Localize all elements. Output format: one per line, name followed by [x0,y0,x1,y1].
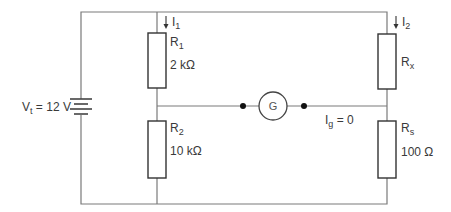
r2-subscript: 2 [179,127,184,137]
source-symbol: V [22,100,30,114]
r2-name-label: R2 [170,122,184,134]
galvanometer-letter: G [263,101,283,112]
current-arrow-i1-icon [164,16,169,29]
rx-name-label: Rx [401,56,414,68]
junction-dot-right [301,103,307,109]
rs-name-label: Rs [401,122,414,134]
i1-subscript: 1 [175,21,180,31]
r1-subscript: 1 [179,41,184,51]
r2-value-label: 10 kΩ [170,145,202,157]
rx-symbol: R [401,55,410,69]
current-i2-label: I2 [402,16,410,28]
current-arrow-i2-icon [394,16,399,29]
rx-subscript: x [410,61,415,71]
r1-name-label: R1 [170,36,184,48]
r1-value-label: 2 kΩ [170,59,195,71]
current-i1-label: I1 [172,16,180,28]
rs-subscript: s [410,127,415,137]
rs-value-label: 100 Ω [401,146,433,158]
resistor-r2 [148,121,166,178]
battery-symbol [70,99,92,114]
resistor-rx [378,34,396,89]
junction-dot-left [240,103,246,109]
top-wire [81,12,387,99]
i2-subscript: 2 [405,21,410,31]
r2-symbol: R [170,121,179,135]
source-value: = 12 V [33,100,71,114]
ig-value: = 0 [333,113,353,127]
bottom-wire [81,115,387,204]
rs-symbol: R [401,121,410,135]
source-voltage-label: Vt = 12 V [22,101,71,113]
galvanometer-current-label: Ig = 0 [325,114,354,126]
resistor-rs [378,121,396,178]
r1-symbol: R [170,35,179,49]
resistor-r1 [148,33,166,88]
